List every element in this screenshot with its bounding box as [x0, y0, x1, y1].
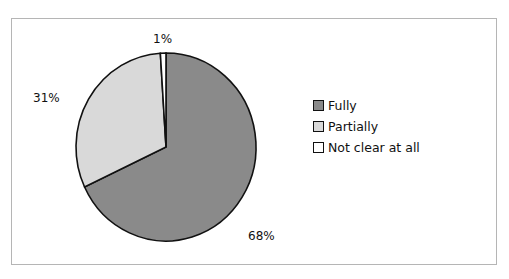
- legend-item-partially: Partially: [313, 116, 420, 137]
- legend-label-not-clear: Not clear at all: [328, 140, 420, 155]
- legend-swatch-not-clear: [313, 142, 324, 153]
- legend-item-fully: Fully: [313, 95, 420, 116]
- legend-swatch-partially: [313, 121, 324, 132]
- legend-item-not-clear: Not clear at all: [313, 137, 420, 158]
- legend-label-fully: Fully: [328, 98, 357, 113]
- slice-label-fully: 68%: [248, 229, 275, 243]
- slice-label-partially: 31%: [33, 91, 60, 105]
- slice-label-not-clear: 1%: [153, 32, 172, 46]
- legend: Fully Partially Not clear at all: [313, 95, 420, 158]
- legend-label-partially: Partially: [328, 119, 378, 134]
- legend-swatch-fully: [313, 100, 324, 111]
